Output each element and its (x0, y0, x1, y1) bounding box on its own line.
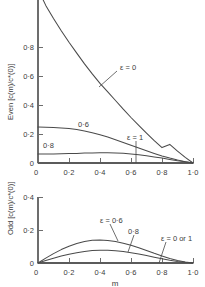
odd-xtick-label-5: 1·0 (188, 268, 199, 277)
even-xtick-label-5: 1·0 (188, 168, 199, 177)
odd-x-axis-title: m (112, 279, 119, 287)
even-x-ticks (38, 158, 193, 163)
odd-curve-eps-08 (38, 250, 193, 263)
odd-ytick-label-0: 0 (30, 259, 34, 268)
even-annotation-eps-0: ε = 0 (120, 63, 136, 72)
even-xtick-label-3: 0·6 (126, 168, 137, 177)
odd-leader-eps-06 (110, 224, 118, 241)
even-ytick-label-1: 0·2 (23, 130, 34, 139)
even-annotation-eps-08: 0·8 (43, 141, 54, 150)
odd-y-ticks (38, 197, 43, 263)
odd-ytick-label-2: 0·4 (23, 193, 34, 202)
odd-annotation-eps-08: 0·8 (128, 227, 139, 236)
even-xtick-label-1: 0·2 (64, 168, 75, 177)
odd-curve-eps-06 (38, 240, 193, 263)
even-annotation-eps-1: ε = 1 (127, 133, 143, 142)
odd-xtick-label-0: 0 (34, 268, 38, 277)
odd-xtick-label-2: 0·4 (95, 268, 106, 277)
even-xtick-label-4: 0·8 (157, 168, 168, 177)
odd-y-axis-title: Odd [c(m)/c*(0)] (6, 182, 15, 235)
even-ytick-label-0: 0 (30, 159, 34, 168)
odd-leader-eps-08 (128, 235, 134, 252)
even-ytick-label-2: 0·4 (23, 101, 34, 110)
odd-annotation-eps-06: ε = 0·6 (100, 216, 123, 225)
even-curve-eps-0 (38, 0, 193, 163)
odd-xtick-label-1: 0·2 (64, 268, 75, 277)
odd-xtick-label-3: 0·6 (126, 268, 137, 277)
even-ytick-label-3: 0·6 (23, 72, 34, 81)
even-xtick-label-2: 0·4 (95, 168, 106, 177)
even-xtick-label-0: 0 (34, 168, 38, 177)
even-y-axis-title: Even [c(m)/c*(0)] (6, 64, 15, 120)
figure-container: 0 0·2 0·4 0·6 0·8 0 0·2 0·4 0·6 0·8 1·0 … (0, 0, 205, 287)
even-leader-eps-0 (99, 71, 117, 87)
odd-chart: 0 0·2 0·4 0 0·2 0·4 0·6 0·8 1·0 Odd [c(m… (0, 180, 205, 287)
even-chart: 0 0·2 0·4 0·6 0·8 0 0·2 0·4 0·6 0·8 1·0 … (0, 0, 205, 180)
even-annotation-eps-06: 0·6 (78, 120, 89, 129)
odd-ytick-label-1: 0·2 (23, 226, 34, 235)
odd-annotation-eps-0-or-1: ε = 0 or 1 (161, 234, 192, 243)
odd-xtick-label-4: 0·8 (157, 268, 168, 277)
even-ytick-label-4: 0·8 (23, 43, 34, 52)
